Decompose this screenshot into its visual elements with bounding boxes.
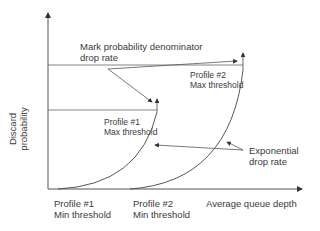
profile1-max-line2: Max threshold — [104, 127, 157, 137]
profile2-min-line1: Profile #2 — [133, 198, 190, 209]
profile2-max-label: Profile #2 Max threshold — [190, 70, 243, 90]
profile1-max-label: Profile #1 Max threshold — [104, 117, 157, 137]
profile2-max-line2: Max threshold — [190, 80, 243, 90]
profile2-min-label: Profile #2 Min threshold — [133, 198, 190, 220]
exp-arrow-2 — [227, 142, 243, 150]
x-axis-label: Average queue depth — [206, 198, 297, 209]
y-axis-label: Discard probability — [7, 99, 29, 159]
profile2-max-line1: Profile #2 — [190, 70, 243, 80]
mark-probability-label: Mark probability denominator drop rate — [80, 41, 203, 63]
red-profile-diagram — [0, 0, 320, 231]
profile1-min-line2: Min threshold — [54, 209, 111, 220]
mark-prob-line2: drop rate — [80, 52, 203, 63]
exp-arrow-1 — [155, 145, 243, 150]
exp-line2: drop rate — [249, 156, 299, 167]
mark-prob-arrow-1 — [108, 69, 152, 102]
profile1-min-label: Profile #1 Min threshold — [54, 198, 111, 220]
profile1-max-line1: Profile #1 — [104, 117, 157, 127]
mark-prob-line1: Mark probability denominator — [80, 41, 203, 52]
y-axis-label-line2: probability — [18, 99, 29, 159]
profile2-min-line2: Min threshold — [133, 209, 190, 220]
exponential-drop-rate-label: Exponential drop rate — [249, 145, 299, 167]
y-axis-label-line1: Discard — [7, 99, 18, 159]
profile1-min-line1: Profile #1 — [54, 198, 111, 209]
exp-line1: Exponential — [249, 145, 299, 156]
